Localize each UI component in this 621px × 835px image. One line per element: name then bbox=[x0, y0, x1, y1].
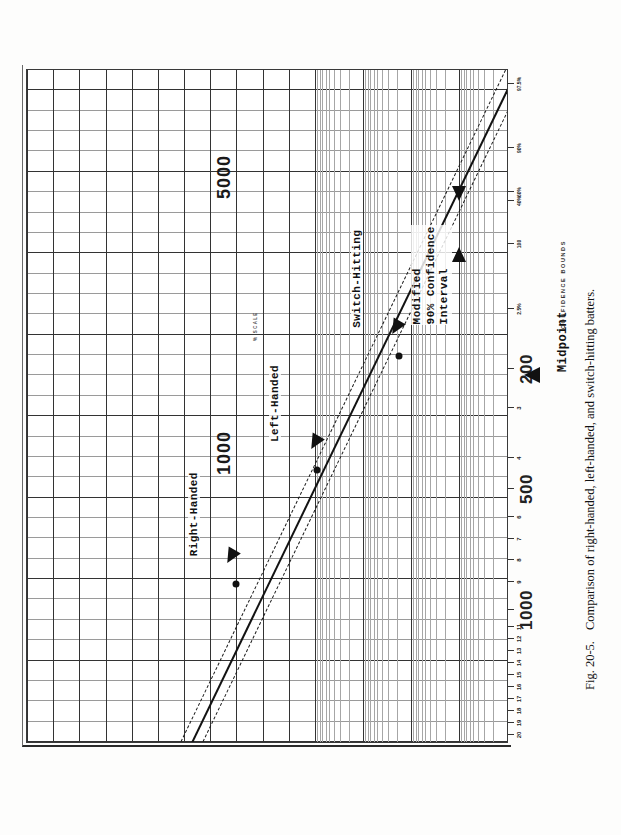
axis-tick-label: 6 bbox=[516, 515, 522, 518]
x-axis: 2019181716151413121110009876500432002.5%… bbox=[508, 71, 618, 743]
figure-caption: Fig. 20-5.Comparison of right-handed, le… bbox=[583, 289, 598, 690]
axis-tick bbox=[508, 407, 514, 408]
axis-tick bbox=[508, 698, 514, 699]
axis-tick-label: 17 bbox=[516, 696, 522, 703]
axis-tick bbox=[508, 368, 514, 369]
annotation-switch-hitting: Switch-Hitting bbox=[351, 229, 363, 329]
axis-tick bbox=[508, 559, 514, 560]
axis-tick-label: 18 bbox=[516, 708, 522, 715]
axis-tick bbox=[508, 662, 514, 663]
axis-tick bbox=[508, 243, 514, 244]
confidence-band bbox=[27, 70, 507, 742]
axis-tick-label: 100 bbox=[516, 240, 522, 248]
interval-arrow-right bbox=[452, 247, 466, 262]
data-point-right-handed bbox=[232, 581, 239, 588]
axis-tick bbox=[508, 457, 514, 458]
axis-tick-label: 19 bbox=[516, 720, 522, 727]
axis-tick-label: 500 bbox=[517, 474, 537, 504]
interval-arrow-left bbox=[452, 186, 466, 201]
axis-tick-label: 2.5% bbox=[516, 303, 522, 314]
edge-label-5000: 5000 bbox=[214, 155, 235, 199]
axis-tick-label: 15 bbox=[516, 672, 522, 679]
axis-tick-label: 4 bbox=[516, 456, 522, 459]
axis-tick-label: 1000 bbox=[517, 590, 537, 630]
axis-tick bbox=[508, 734, 514, 735]
axis-tick bbox=[508, 674, 514, 675]
rotated-figure-wrapper: Right-Handed Left-Handed Switch-Hitting … bbox=[0, 0, 621, 835]
axis-tick-label: 16 bbox=[516, 684, 522, 691]
axis-tick-label: 60% bbox=[516, 187, 522, 197]
axis-tick bbox=[508, 626, 514, 627]
data-point-switch-hitting bbox=[396, 352, 403, 359]
axis-tick bbox=[508, 581, 514, 582]
axis-tick-label: 40% bbox=[516, 196, 522, 206]
plot-area: Right-Handed Left-Handed Switch-Hitting … bbox=[26, 69, 508, 743]
axis-tick-label: 7 bbox=[516, 537, 522, 540]
axis-tick-label: 8 bbox=[516, 558, 522, 561]
caption-number: Fig. 20-5. bbox=[583, 641, 597, 690]
axis-tick bbox=[508, 722, 514, 723]
figure-body: Right-Handed Left-Handed Switch-Hitting … bbox=[0, 0, 621, 835]
axis-tick bbox=[508, 488, 514, 489]
axis-tick-label: 3 bbox=[516, 406, 522, 409]
axis-tick bbox=[508, 609, 514, 610]
confidence-bounds-note: CONFIDENCE BOUNDS bbox=[560, 240, 566, 329]
axis-tick bbox=[508, 200, 514, 201]
axis-tick bbox=[508, 83, 514, 84]
annotation-left-handed: Left-Handed bbox=[269, 364, 281, 443]
caption-text: Comparison of right-handed, left-handed,… bbox=[583, 289, 597, 630]
axis-tick-label: 14 bbox=[516, 660, 522, 667]
midpoint-arrow-icon bbox=[524, 367, 540, 383]
annotation-right-handed: Right-Handed bbox=[188, 471, 200, 557]
data-point-left-handed bbox=[314, 466, 321, 473]
axis-tick-label: 12 bbox=[516, 636, 522, 643]
edge-label-1000: 1000 bbox=[214, 431, 235, 475]
axis-tick bbox=[508, 147, 514, 148]
axis-tick bbox=[508, 538, 514, 539]
figure-page: Right-Handed Left-Handed Switch-Hitting … bbox=[0, 0, 621, 835]
axis-tick bbox=[508, 710, 514, 711]
scale-note: % SCALE bbox=[253, 311, 258, 341]
axis-tick bbox=[508, 308, 514, 309]
axis-tick-label: 13 bbox=[516, 648, 522, 655]
axis-tick-label: 97.5% bbox=[516, 77, 522, 91]
axis-tick-label: 90% bbox=[516, 143, 522, 153]
annotation-confidence-interval: Modified 90% Confidence Interval bbox=[411, 225, 452, 325]
axis-tick bbox=[508, 650, 514, 651]
axis-tick bbox=[508, 516, 514, 517]
axis-tick bbox=[508, 191, 514, 192]
axis-tick bbox=[508, 686, 514, 687]
axis-tick-label: 20 bbox=[516, 732, 522, 739]
axis-tick bbox=[508, 638, 514, 639]
axis-tick-label: 9 bbox=[516, 580, 522, 583]
